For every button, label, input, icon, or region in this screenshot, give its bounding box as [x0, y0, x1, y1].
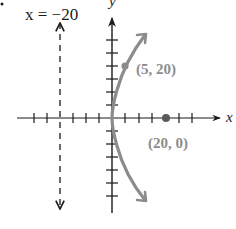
point-5-20: [121, 62, 128, 69]
point-label-20-0: (20, 0): [148, 135, 188, 152]
directrix-label: x = −20: [25, 5, 78, 24]
focus-point-20-0: [162, 114, 170, 122]
point-label-5-20: (5, 20): [136, 61, 176, 78]
x-axis-label: x: [225, 109, 233, 125]
corner-mark: [1, 3, 4, 6]
y-axis-label: y: [107, 0, 116, 9]
parabola-diagram: x = −20 y x (5, 20) (20, 0): [0, 0, 236, 229]
